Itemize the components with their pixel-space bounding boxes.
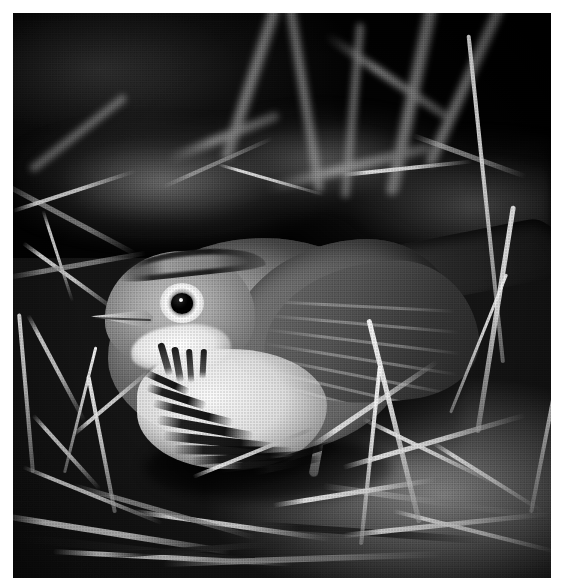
page-root: Grainy black-and-white photograph of an … (0, 0, 563, 588)
grass-blade (467, 35, 505, 364)
grass-blade (86, 375, 117, 513)
grass-blade (17, 313, 35, 473)
grass-blade (529, 316, 551, 513)
foreground-grass (13, 13, 551, 578)
grass-blade (475, 205, 516, 433)
grass-blade (359, 366, 382, 545)
ovenbird-photo (13, 13, 551, 578)
